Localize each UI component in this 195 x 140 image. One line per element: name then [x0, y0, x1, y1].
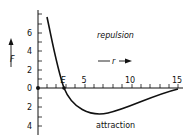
- attraction-label: attraction: [96, 121, 135, 130]
- y-tick-neg-4: 4: [27, 122, 32, 131]
- r-axis-label: r: [112, 57, 116, 66]
- r-arrowhead-icon: [125, 59, 132, 64]
- x-tick-10: 10: [125, 76, 135, 85]
- x-tick-5: 5: [81, 76, 86, 85]
- y-ticks: [38, 14, 42, 126]
- x-label-e: E: [60, 76, 66, 85]
- y-tick-6: 6: [27, 29, 32, 38]
- y-tick-2: 2: [27, 66, 32, 75]
- y-tick-4: 4: [27, 47, 32, 56]
- y-tick-0: 0: [27, 84, 32, 93]
- f-axis-label: F: [10, 55, 15, 64]
- repulsion-label: repulsion: [97, 31, 134, 40]
- y-tick-neg-2: 2: [27, 103, 32, 112]
- origin-point: [36, 86, 40, 90]
- f-arrowhead-icon: [9, 38, 14, 45]
- x-ticks: [47, 84, 178, 88]
- x-tick-15: 15: [172, 76, 182, 85]
- force-distance-chart: F r 6 4 2 0 2 4 E 5 10 15 repulsion attr…: [0, 0, 195, 140]
